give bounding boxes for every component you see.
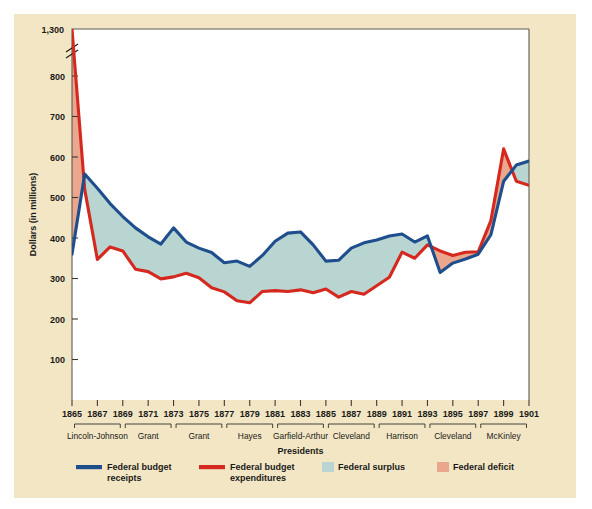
x-tick-label: 1869 [113, 409, 133, 419]
figure-root: 1002003004005006007008001,30018651867186… [0, 0, 592, 509]
x-tick-label: 1875 [189, 409, 209, 419]
y-tick-label: 1,300 [41, 25, 64, 35]
legend-label-line2: expenditures [230, 473, 286, 483]
president-bracket [176, 424, 222, 428]
x-tick-label: 1877 [214, 409, 234, 419]
chart-panel: 1002003004005006007008001,30018651867186… [14, 14, 576, 498]
x-tick-label: 1897 [468, 409, 488, 419]
y-axis-title: Dollars (in millions) [28, 173, 38, 257]
x-tick-label: 1871 [138, 409, 158, 419]
x-tick-label: 1885 [316, 409, 336, 419]
legend-swatch [437, 462, 449, 472]
x-tick-label: 1899 [494, 409, 514, 419]
legend-swatch [199, 465, 225, 469]
x-tick-label: 1867 [87, 409, 107, 419]
president-label: Cleveland [434, 431, 472, 441]
legend-label: Federal budget [230, 462, 295, 472]
legend-swatch [322, 462, 334, 472]
president-label: Hayes [238, 431, 262, 441]
y-tick-label: 100 [50, 355, 65, 365]
x-tick-label: 1889 [367, 409, 387, 419]
x-axis-title: Presidents [277, 446, 323, 456]
y-tick-label: 800 [50, 72, 65, 82]
y-tick-label: 500 [50, 193, 65, 203]
y-tick-label: 700 [50, 112, 65, 122]
chart-legend: Federal budgetreceiptsFederal budgetexpe… [76, 462, 514, 483]
legend-label: Federal deficit [453, 462, 514, 472]
x-tick-label: 1901 [519, 409, 539, 419]
x-tick-label: 1887 [341, 409, 361, 419]
x-tick-label: 1865 [62, 409, 82, 419]
x-tick-label: 1891 [392, 409, 412, 419]
president-bracket [328, 424, 374, 428]
x-tick-label: 1881 [265, 409, 285, 419]
president-label: Lincoln-Johnson [67, 431, 128, 441]
y-tick-label: 200 [50, 315, 65, 325]
president-label: Garfield-Arthur [273, 431, 328, 441]
x-tick-label: 1893 [417, 409, 437, 419]
plot-background [72, 29, 529, 400]
president-label: Grant [188, 431, 210, 441]
legend-label: Federal surplus [338, 462, 405, 472]
president-bracket [430, 424, 476, 428]
president-label: Cleveland [333, 431, 371, 441]
x-tick-label: 1873 [164, 409, 184, 419]
president-label: Harrison [386, 431, 418, 441]
president-bracket [227, 424, 273, 428]
president-brackets: Lincoln-JohnsonGrantGrantHayesGarfield-A… [67, 424, 527, 441]
x-tick-label: 1879 [240, 409, 260, 419]
president-bracket [481, 424, 527, 428]
president-bracket [75, 424, 121, 428]
x-tick-label: 1895 [443, 409, 463, 419]
x-tick-label: 1883 [290, 409, 310, 419]
y-tick-label: 600 [50, 153, 65, 163]
budget-line-chart: 1002003004005006007008001,30018651867186… [14, 14, 576, 498]
y-tick-label: 400 [50, 234, 65, 244]
president-label: Grant [138, 431, 160, 441]
president-bracket [278, 424, 324, 428]
president-label: McKinley [487, 431, 522, 441]
legend-label: Federal budget [107, 462, 172, 472]
president-bracket [379, 424, 425, 428]
y-tick-label: 300 [50, 274, 65, 284]
plot-area-wrapper: 1002003004005006007008001,30018651867186… [14, 14, 576, 498]
legend-swatch [76, 465, 102, 469]
president-bracket [125, 424, 171, 428]
legend-label-line2: receipts [107, 473, 142, 483]
